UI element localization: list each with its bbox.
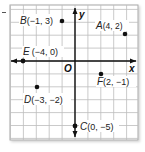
svg-text:C(0, −5): C(0, −5) — [80, 121, 114, 132]
coordinate-plane-figure: y x O B(−1, 3) A(4, 2) E(−4, 0) F(2, −1) — [0, 0, 145, 152]
point-d-dot — [35, 85, 40, 90]
stray-dash-mark — [2, 12, 6, 13]
svg-text:B(−1, 3): B(−1, 3) — [20, 15, 53, 26]
point-f-coords: (2, −1) — [103, 77, 129, 87]
svg-text:A(4, 2): A(4, 2) — [95, 20, 123, 31]
point-b: B(−1, 3) — [19, 14, 64, 26]
point-c-dot — [73, 124, 78, 129]
point-d-coords: (−3, −2) — [31, 95, 63, 105]
origin-label: O — [64, 63, 72, 74]
x-axis-label: x — [128, 63, 135, 74]
svg-text:F(2, −1): F(2, −1) — [97, 76, 129, 87]
point-c-coords: (0, −5) — [87, 122, 113, 132]
point-d-name: D — [24, 94, 31, 105]
point-b-coords: (−1, 3) — [27, 16, 53, 26]
point-e-coords: (−4, 0) — [32, 47, 58, 57]
point-a-dot — [123, 32, 128, 37]
point-f-dot — [99, 72, 104, 77]
point-e-dot — [21, 59, 26, 64]
point-c: C(0, −5) — [73, 120, 119, 132]
y-axis-label: y — [78, 9, 85, 20]
point-b-dot — [60, 19, 65, 24]
point-a-coords: (4, 2) — [103, 21, 123, 31]
svg-text:D(−3, −2): D(−3, −2) — [24, 94, 63, 105]
svg-text:E(−4, 0): E(−4, 0) — [23, 46, 58, 57]
point-e-name: E — [23, 46, 30, 57]
coordinate-plane: y x O B(−1, 3) A(4, 2) E(−4, 0) F(2, −1) — [0, 0, 145, 152]
